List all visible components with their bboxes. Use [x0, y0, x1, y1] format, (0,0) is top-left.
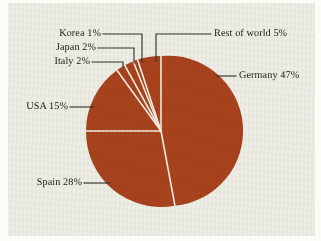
leader-line-italy [92, 62, 123, 67]
pie-chart-screenshot: Korea 1% Japan 2% Italy 2% USA 15% Spain… [0, 0, 321, 241]
callout-label-korea: Korea 1% [8, 28, 101, 39]
pie-slice-spain[interactable] [86, 131, 175, 207]
callout-label-germany: Germany 47% [239, 70, 299, 81]
chart-canvas: Korea 1% Japan 2% Italy 2% USA 15% Spain… [8, 3, 315, 236]
callout-label-rest-of-world: Rest of world 5% [214, 28, 287, 39]
callout-label-usa: USA 15% [8, 101, 68, 112]
callout-label-japan: Japan 2% [8, 42, 96, 53]
pie-slice-germany[interactable] [161, 56, 243, 206]
callout-label-spain: Spain 28% [8, 177, 82, 188]
callout-label-italy: Italy 2% [8, 56, 90, 67]
leader-line-japan [98, 48, 134, 63]
